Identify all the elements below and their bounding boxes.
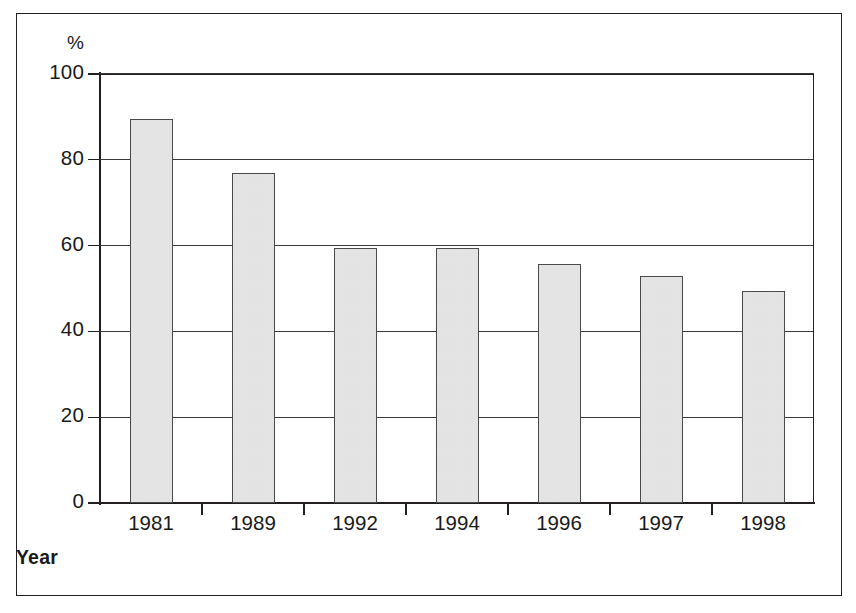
gridline-100 <box>100 73 814 74</box>
x-tick-label-1998: 1998 <box>713 511 813 535</box>
bar-1994 <box>436 248 479 503</box>
y-tick-0 <box>88 502 99 503</box>
bar-1996 <box>538 264 581 503</box>
y-tick-20 <box>88 417 99 418</box>
bar-1998 <box>742 291 785 503</box>
y-tick-60 <box>88 245 99 246</box>
plot-area <box>100 74 814 503</box>
gridline-60 <box>100 245 814 246</box>
bar-1997 <box>640 276 683 503</box>
x-tick-label-1997: 1997 <box>611 511 711 535</box>
x-tick-label-1996: 1996 <box>509 511 609 535</box>
y-tick-100 <box>88 73 99 74</box>
gridline-80 <box>100 159 814 160</box>
x-tick-label-1992: 1992 <box>305 511 405 535</box>
y-tick-label-80: 80 <box>61 146 84 170</box>
y-tick-label-40: 40 <box>61 317 84 341</box>
y-tick-label-20: 20 <box>61 403 84 427</box>
y-tick-40 <box>88 331 99 332</box>
y-tick-label-0: 0 <box>72 489 84 513</box>
x-axis-title: Year <box>0 546 856 569</box>
bar-1989 <box>232 173 275 503</box>
x-tick-label-1981: 1981 <box>101 511 201 535</box>
y-tick-80 <box>88 159 99 160</box>
x-tick-label-1989: 1989 <box>203 511 303 535</box>
bar-1992 <box>334 248 377 503</box>
x-tick-label-1994: 1994 <box>407 511 507 535</box>
y-tick-label-100: 100 <box>49 60 84 84</box>
y-tick-label-60: 60 <box>61 232 84 256</box>
chart-figure: % 020406080100 1981198919921994199619971… <box>0 0 856 613</box>
x-axis-title-text: Year <box>16 546 58 569</box>
y-axis-tick-labels: 020406080100 <box>0 0 84 613</box>
bar-1981 <box>130 119 173 503</box>
